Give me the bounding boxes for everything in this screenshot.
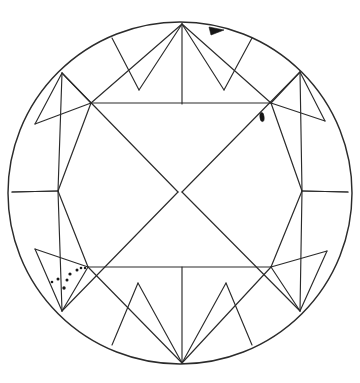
star-edge-1	[182, 24, 271, 103]
star-facet-edges	[62, 24, 300, 363]
bezel-edge-ne-right	[300, 72, 302, 191]
ugf-edge-wnw	[35, 73, 62, 124]
ugf-edge-se-out	[271, 251, 327, 267]
pinpoint-dot	[57, 278, 60, 281]
bezel-edge-n-left	[139, 24, 182, 90]
bezel-edge-n-right	[182, 24, 224, 90]
pinpoint-dot	[80, 267, 83, 270]
pinpoint-dot	[62, 286, 65, 289]
pinpoint-dot	[51, 281, 54, 284]
star-edge-5	[182, 267, 271, 363]
bezel-edge-se-bottom	[271, 267, 300, 311]
ugf-edge-e-horiz	[302, 191, 348, 192]
ugf-edge-nnw	[112, 38, 139, 90]
bezel-edge-sw-top	[58, 191, 62, 311]
ugf-edge-sw-out	[35, 249, 88, 267]
table-octagon	[58, 103, 302, 267]
diamond-plot-svg	[0, 0, 360, 383]
star-edge-6	[88, 267, 182, 363]
pinpoint-dot	[66, 279, 69, 282]
diamond-plot-diagram	[0, 0, 360, 383]
bezel-edge-s-left	[138, 283, 182, 363]
ugf-edge-nw-out	[35, 103, 91, 124]
ugf-edge-w-horiz	[12, 191, 58, 192]
pinpoint-dot	[84, 267, 86, 269]
crystal-oval-icon	[259, 112, 264, 122]
ugf-edge-ese	[300, 251, 327, 311]
inclusion-markings	[51, 27, 265, 290]
bezel-edge-se-top	[300, 191, 302, 311]
bezel-edge-nw-bottom	[58, 73, 62, 191]
natural-triangle-icon	[209, 27, 224, 35]
star-edge-7	[62, 192, 178, 311]
star-edge-3	[182, 72, 300, 192]
star-edge-2	[91, 24, 182, 103]
pinpoint-dot	[68, 272, 71, 275]
pinpoint-dot	[76, 269, 79, 272]
star-edge-4	[182, 192, 300, 311]
